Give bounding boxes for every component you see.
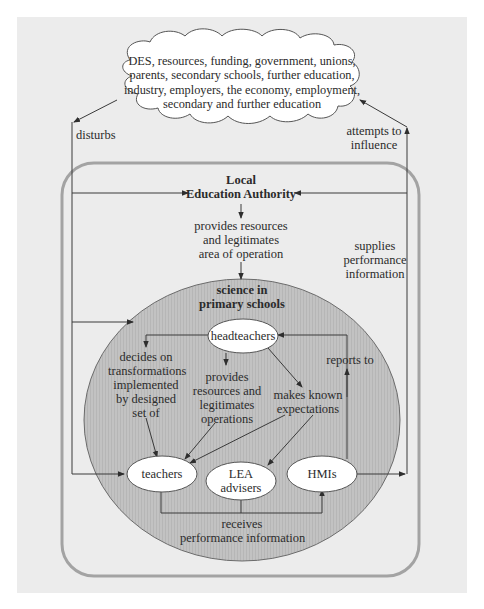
cloud-line-4: secondary and further education <box>118 97 366 111</box>
label-makes-known-expectations: makes known expectations <box>268 388 348 416</box>
hmis-node: HMIs <box>287 465 357 483</box>
lea-advisers-node: LEA advisers <box>206 466 276 496</box>
label-attempts-to-influence: attempts to influence <box>344 124 404 152</box>
label-provides-resources-operations: provides resources and legitimates opera… <box>190 370 264 426</box>
cloud-line-1: DES, resources, funding, government, uni… <box>118 54 366 68</box>
label-decides-on-transformations: decides on transformations implemented b… <box>108 350 184 420</box>
label-reports-to: reports to <box>322 353 378 367</box>
label-supplies-performance-information: supplies performance information <box>340 239 410 281</box>
cloud-line-2: parents, secondary schools, further educ… <box>118 68 366 82</box>
cloud-line-3: industry, employers, the economy, employ… <box>118 83 366 97</box>
teachers-node: teachers <box>127 465 197 483</box>
environment-cloud-text: DES, resources, funding, government, uni… <box>118 54 366 111</box>
label-disturbs: disturbs <box>76 128 116 142</box>
science-subsystem-title: science in primary schools <box>190 283 294 311</box>
lea-title: Local Education Authority <box>180 173 302 201</box>
label-provides-resources-area: provides resources and legitimates area … <box>185 219 297 261</box>
headteachers-node: headteachers <box>208 327 278 345</box>
label-receives-performance-information: receives performance information <box>180 517 304 545</box>
